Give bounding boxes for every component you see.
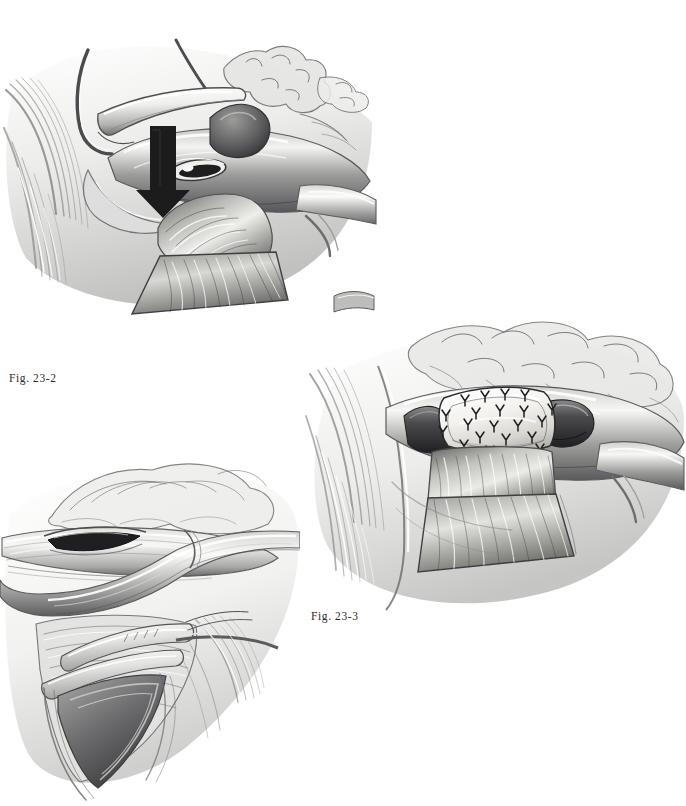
figure-23-2 [0,18,378,318]
patch-graft [439,387,555,453]
figure-lower-left-artwork [0,444,300,806]
instrument-tip [334,292,374,313]
figure-caption-23-3: Fig. 23-3 [311,610,359,622]
figure-23-3-artwork [300,312,686,612]
figure-23-3 [300,312,686,612]
illustration-page: Fig. 23-2 [0,0,686,806]
figure-caption-23-2: Fig. 23-2 [9,372,57,384]
fibrofatty-tissue [49,464,274,534]
vessel-stump-bulb [210,104,270,157]
figure-23-2-artwork [0,18,378,318]
figure-lower-left [0,444,300,806]
